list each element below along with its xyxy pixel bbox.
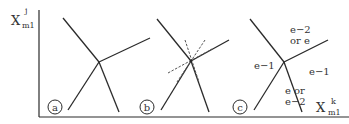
junction-point bbox=[190, 60, 193, 63]
svg-text:m1: m1 bbox=[22, 21, 35, 30]
boundary-line bbox=[68, 62, 99, 110]
panel-label: b bbox=[144, 102, 150, 113]
y-axis-label: X j m1 bbox=[11, 6, 35, 30]
svg-text:m1: m1 bbox=[328, 108, 341, 117]
panel-a: a bbox=[48, 18, 150, 114]
region-label: e−1 bbox=[254, 60, 275, 71]
region-label: e−2 bbox=[290, 24, 311, 35]
region-label: e−1 bbox=[309, 66, 330, 77]
boundary-line bbox=[63, 18, 99, 62]
svg-text:j: j bbox=[24, 6, 27, 15]
region-label: or e bbox=[290, 35, 310, 46]
panel-label: a bbox=[52, 102, 58, 113]
svg-text:X: X bbox=[316, 100, 326, 115]
x-axis-label: X k m1 bbox=[316, 97, 341, 117]
svg-text:k: k bbox=[331, 97, 336, 106]
panel-label: c bbox=[237, 102, 243, 113]
boundary-line bbox=[99, 38, 150, 62]
boundary-line bbox=[250, 19, 284, 62]
boundary-line bbox=[99, 62, 119, 112]
region-label: e−2 bbox=[285, 96, 306, 107]
panel-b: b bbox=[140, 19, 229, 114]
svg-text:X: X bbox=[11, 13, 21, 28]
boundary-line bbox=[191, 61, 209, 112]
boundary-line bbox=[157, 19, 191, 61]
region-label: e or bbox=[285, 85, 305, 96]
phase-diagram: X j m1 X k m1 abce−2or ee−1e−1e ore−2 bbox=[0, 0, 349, 124]
